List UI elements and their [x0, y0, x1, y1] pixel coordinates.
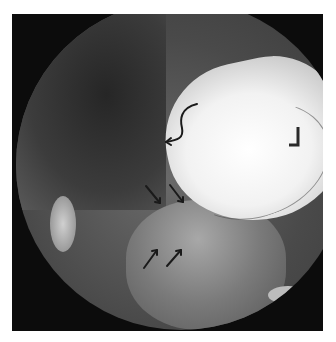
annotation-overlay: [0, 0, 336, 342]
arrow-down-right-icon: [146, 186, 160, 203]
side-marker-L-icon: [289, 127, 298, 145]
arrow-up-right-icon: [144, 250, 157, 268]
curved-arrow-icon: [166, 104, 197, 145]
arrow-up-right-icon: [167, 250, 181, 266]
arrow-down-right-icon: [170, 185, 183, 202]
